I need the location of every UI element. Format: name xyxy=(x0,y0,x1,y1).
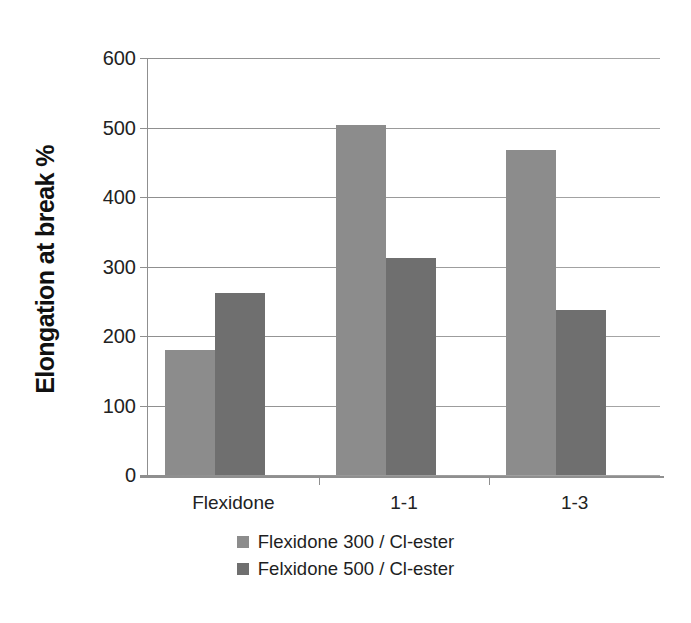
y-tick-label: 400 xyxy=(103,186,136,209)
y-tick-mark xyxy=(140,197,148,198)
legend-label: Flexidone 300 / Cl-ester xyxy=(258,531,454,553)
legend-item[interactable]: Flexidone 300 / Cl-ester xyxy=(0,531,691,553)
bar xyxy=(215,293,265,475)
x-tick-mark xyxy=(489,476,490,485)
y-tick-label: 600 xyxy=(103,47,136,70)
x-tick-mark xyxy=(319,476,320,485)
y-tick-label: 500 xyxy=(103,116,136,139)
y-tick-mark xyxy=(140,406,148,407)
y-tick-mark xyxy=(140,336,148,337)
bar xyxy=(556,310,606,475)
bar xyxy=(165,350,215,475)
y-axis-title: Elongation at break % xyxy=(31,70,60,470)
legend-swatch-icon xyxy=(237,563,249,575)
y-tick-label: 0 xyxy=(125,464,136,487)
y-tick-mark xyxy=(140,267,148,268)
legend-item[interactable]: Felxidone 500 / Cl-ester xyxy=(0,558,691,580)
y-tick-label: 300 xyxy=(103,255,136,278)
x-tick-label: 1-1 xyxy=(390,492,417,514)
bar xyxy=(386,258,436,475)
x-axis-line xyxy=(140,476,664,478)
legend-label: Felxidone 500 / Cl-ester xyxy=(258,558,454,580)
x-tick-label: Flexidone xyxy=(192,492,274,514)
chart-legend: Flexidone 300 / Cl-esterFelxidone 500 / … xyxy=(0,531,691,585)
y-tick-mark xyxy=(140,58,148,59)
legend-swatch-icon xyxy=(237,536,249,548)
gridline xyxy=(148,58,660,59)
y-tick-label: 200 xyxy=(103,325,136,348)
y-tick-mark xyxy=(140,128,148,129)
gridline xyxy=(148,197,660,198)
plot-area: 0100200300400500600 xyxy=(148,58,660,475)
y-tick-label: 100 xyxy=(103,394,136,417)
bar-chart: Elongation at break % 010020030040050060… xyxy=(0,0,691,623)
bar xyxy=(506,150,556,475)
x-tick-label: 1-3 xyxy=(561,492,588,514)
bar xyxy=(336,125,386,475)
gridline xyxy=(148,128,660,129)
y-axis-line xyxy=(147,58,148,477)
